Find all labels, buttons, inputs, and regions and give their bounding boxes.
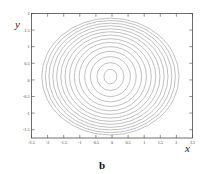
- y-tick-label: 1.5: [24, 28, 29, 33]
- y-tick-label: 1: [27, 44, 29, 49]
- y-tick-label: 0: [27, 78, 29, 83]
- x-tick-label: -2.5: [28, 140, 35, 145]
- y-tick-label: -0.5: [23, 94, 30, 99]
- x-tick-label: 1: [143, 140, 145, 145]
- y-tick-label: -1.5: [23, 127, 30, 132]
- y-tick-label: 2: [27, 11, 29, 16]
- x-tick-label: -0.5: [93, 140, 100, 145]
- x-tick-label: 0.5: [125, 140, 130, 145]
- x-tick-label: -2: [46, 140, 50, 145]
- y-tick-label: 0.5: [24, 61, 29, 66]
- figure-panel: -2.5-2-1.5-1-0.500.511.522.5 -1.5-1-0.50…: [0, 0, 203, 174]
- panel-caption: b: [99, 159, 105, 171]
- x-tick-label: -1.5: [60, 140, 67, 145]
- x-axis-title: x: [184, 142, 190, 154]
- y-axis-title: y: [14, 18, 20, 30]
- x-tick-label: 2: [175, 140, 177, 145]
- y-tick-label: -1: [26, 111, 30, 116]
- x-tick-label: 1.5: [158, 140, 163, 145]
- x-tick-label: -1: [78, 140, 82, 145]
- contour-plot: -2.5-2-1.5-1-0.500.511.522.5 -1.5-1-0.50…: [0, 0, 203, 174]
- x-tick-label: 0: [111, 140, 113, 145]
- x-tick-label: 2.5: [190, 140, 195, 145]
